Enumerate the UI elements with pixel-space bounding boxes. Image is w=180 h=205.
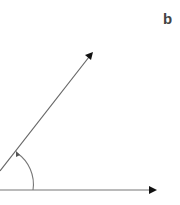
panel-label: b (163, 10, 172, 27)
arc-arrowhead-icon (16, 151, 20, 157)
angle-arc (17, 153, 33, 190)
diagonal-ray (0, 57, 89, 171)
horizontal-arrowhead-icon (149, 186, 157, 194)
angle-diagram (0, 0, 180, 205)
diagonal-arrowhead-icon (85, 52, 93, 60)
